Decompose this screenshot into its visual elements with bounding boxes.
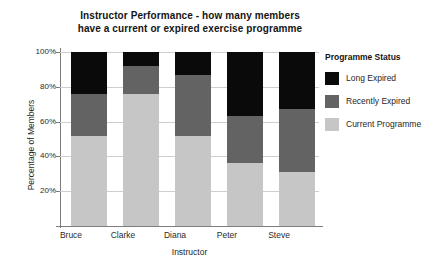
legend: Programme Status Long Expired Recently E… [325, 52, 443, 140]
y-axis-title: Percentage of Members [26, 70, 36, 220]
legend-item-current-programme[interactable]: Current Programme [325, 117, 443, 131]
x-tick-peter: Peter [201, 230, 253, 240]
bar-steve-recently-expired[interactable] [279, 109, 315, 172]
chart-title: Instructor Performance - how many member… [52, 9, 328, 35]
stacked-bar-chart: Instructor Performance - how many member… [0, 0, 444, 269]
legend-label-current-programme: Current Programme [346, 119, 421, 129]
legend-title: Programme Status [325, 52, 443, 62]
x-tick-bruce: Bruce [45, 230, 97, 240]
bar-bruce[interactable] [71, 52, 107, 226]
x-tick-steve: Steve [253, 230, 305, 240]
legend-swatch-recently-expired [325, 95, 339, 108]
legend-swatch-long-expired [325, 72, 339, 85]
y-tick-100: 100% [22, 48, 56, 56]
bar-bruce-current-programme[interactable] [71, 136, 107, 227]
x-tick-clarke: Clarke [97, 230, 149, 240]
bar-steve-current-programme[interactable] [279, 172, 315, 226]
bar-steve[interactable] [279, 52, 315, 226]
legend-swatch-current-programme [325, 118, 339, 131]
x-axis-line [56, 226, 323, 227]
bar-peter-current-programme[interactable] [227, 163, 263, 226]
legend-label-recently-expired: Recently Expired [346, 96, 410, 106]
bar-bruce-recently-expired[interactable] [71, 94, 107, 136]
chart-title-line-1: Instructor Performance - how many member… [52, 9, 328, 22]
chart-title-line-2: have a current or expired exercise progr… [52, 22, 328, 35]
y-axis-ticks: 100% 80% 60% 40% 20% Percentage of Membe… [18, 52, 56, 226]
bar-clarke-current-programme[interactable] [123, 94, 159, 226]
bar-diana-long-expired[interactable] [175, 52, 211, 75]
bar-clarke-long-expired[interactable] [123, 52, 159, 66]
legend-item-recently-expired[interactable]: Recently Expired [325, 94, 443, 108]
bar-diana-recently-expired[interactable] [175, 75, 211, 136]
bar-peter[interactable] [227, 52, 263, 226]
bar-diana[interactable] [175, 52, 211, 226]
bar-clarke-recently-expired[interactable] [123, 66, 159, 94]
legend-item-long-expired[interactable]: Long Expired [325, 71, 443, 85]
legend-label-long-expired: Long Expired [346, 73, 396, 83]
bar-peter-recently-expired[interactable] [227, 116, 263, 163]
x-axis-title: Instructor [60, 247, 319, 257]
bar-steve-long-expired[interactable] [279, 52, 315, 109]
plot-area [60, 52, 319, 226]
bar-bruce-long-expired[interactable] [71, 52, 107, 94]
bar-clarke[interactable] [123, 52, 159, 226]
bar-peter-long-expired[interactable] [227, 52, 263, 116]
x-tick-diana: Diana [149, 230, 201, 240]
bar-diana-current-programme[interactable] [175, 136, 211, 227]
